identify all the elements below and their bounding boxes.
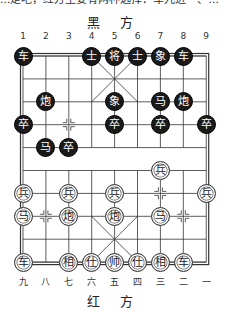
piece-glyph: 马: [18, 211, 29, 222]
red-piece-马[interactable]: 马: [14, 207, 33, 226]
bottom-file-number-3: 七: [61, 275, 77, 288]
bottom-file-number-2: 八: [38, 275, 54, 288]
piece-glyph: 卒: [201, 119, 212, 130]
piece-glyph: 象: [109, 96, 120, 107]
bottom-file-number-6: 四: [130, 275, 146, 288]
piece-glyph: 车: [178, 51, 189, 62]
piece-glyph: 炮: [109, 211, 120, 222]
piece-glyph: 兵: [18, 188, 29, 199]
piece-glyph: 卒: [63, 142, 74, 153]
bottom-file-number-7: 三: [152, 275, 168, 288]
piece-glyph: 将: [109, 51, 120, 62]
piece-glyph: 兵: [109, 188, 120, 199]
piece-glyph: 车: [178, 257, 189, 268]
piece-glyph: 兵: [155, 165, 166, 176]
piece-glyph: 士: [86, 51, 97, 62]
red-piece-车[interactable]: 车: [14, 253, 33, 272]
piece-glyph: 相: [155, 257, 166, 268]
piece-glyph: 象: [155, 51, 166, 62]
black-piece-士[interactable]: 士: [82, 47, 101, 66]
black-piece-将[interactable]: 将: [105, 47, 124, 66]
red-piece-兵[interactable]: 兵: [197, 184, 216, 203]
black-piece-象[interactable]: 象: [151, 47, 170, 66]
red-piece-相[interactable]: 相: [151, 253, 170, 272]
red-piece-帅[interactable]: 帅: [105, 253, 124, 272]
piece-glyph: 马: [155, 96, 166, 107]
piece-glyph: 车: [18, 257, 29, 268]
red-piece-车[interactable]: 车: [174, 253, 193, 272]
black-piece-卒[interactable]: 卒: [14, 115, 33, 134]
red-side-label: 红 方: [0, 291, 228, 310]
black-piece-卒[interactable]: 卒: [197, 115, 216, 134]
bottom-file-number-5: 五: [107, 275, 123, 288]
piece-glyph: 仕: [86, 257, 97, 268]
black-piece-车[interactable]: 车: [174, 47, 193, 66]
piece-glyph: 兵: [201, 188, 212, 199]
black-piece-卒[interactable]: 卒: [151, 115, 170, 134]
bottom-file-number-1: 九: [15, 275, 31, 288]
piece-glyph: 车: [18, 51, 29, 62]
red-piece-相[interactable]: 相: [59, 253, 78, 272]
piece-glyph: 相: [63, 257, 74, 268]
red-piece-仕[interactable]: 仕: [128, 253, 147, 272]
piece-glyph: 炮: [63, 211, 74, 222]
red-piece-兵[interactable]: 兵: [151, 161, 170, 180]
red-piece-兵[interactable]: 兵: [105, 184, 124, 203]
red-piece-炮[interactable]: 炮: [59, 207, 78, 226]
piece-glyph: 卒: [18, 119, 29, 130]
piece-glyph: 卒: [155, 119, 166, 130]
piece-glyph: 马: [40, 142, 51, 153]
piece-glyph: 兵: [63, 188, 74, 199]
piece-glyph: 仕: [132, 257, 143, 268]
red-piece-炮[interactable]: 炮: [105, 207, 124, 226]
black-piece-车[interactable]: 车: [14, 47, 33, 66]
bottom-file-number-9: 一: [198, 275, 214, 288]
piece-glyph: 马: [155, 211, 166, 222]
piece-glyph: 帅: [109, 257, 120, 268]
black-piece-士[interactable]: 士: [128, 47, 147, 66]
black-piece-炮[interactable]: 炮: [174, 92, 193, 111]
red-piece-马[interactable]: 马: [151, 207, 170, 226]
piece-glyph: 士: [132, 51, 143, 62]
piece-glyph: 炮: [40, 96, 51, 107]
piece-glyph: 炮: [178, 96, 189, 107]
red-piece-兵[interactable]: 兵: [14, 184, 33, 203]
bottom-file-number-8: 二: [175, 275, 191, 288]
bottom-file-number-4: 六: [84, 275, 100, 288]
red-piece-仕[interactable]: 仕: [82, 253, 101, 272]
piece-glyph: 卒: [109, 119, 120, 130]
